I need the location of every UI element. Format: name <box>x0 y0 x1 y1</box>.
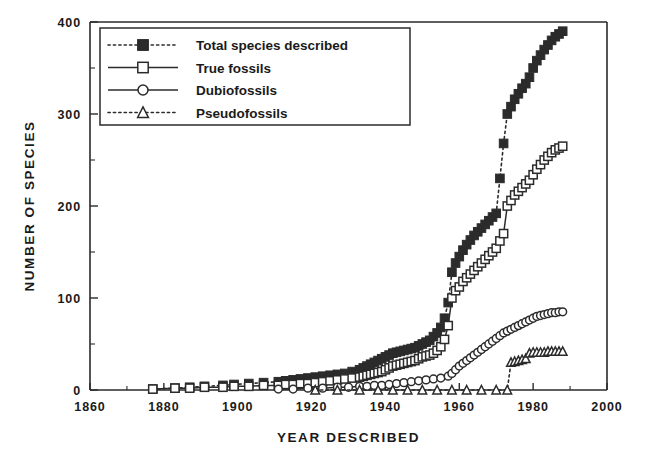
marker-open-circle <box>138 85 148 95</box>
legend-item-label: Total species described <box>196 38 348 53</box>
y-tick-label: 100 <box>57 292 81 306</box>
x-tick-label: 1960 <box>444 400 475 414</box>
x-tick-label: 1980 <box>517 400 548 414</box>
marker-open-circle <box>363 382 371 390</box>
legend-item-label: Dubiofossils <box>196 83 277 98</box>
marker-open-circle <box>437 374 445 382</box>
marker-open-circle <box>304 384 312 392</box>
marker-open-circle <box>289 385 297 393</box>
marker-open-square <box>149 385 157 393</box>
x-tick-label: 2000 <box>591 400 622 414</box>
x-axis-title: YEAR DESCRIBED <box>277 430 420 445</box>
marker-open-square <box>559 142 567 150</box>
x-tick-label: 1940 <box>370 400 401 414</box>
marker-open-square <box>259 381 267 389</box>
marker-open-circle <box>559 308 567 316</box>
marker-open-square <box>245 382 253 390</box>
marker-open-circle <box>274 385 282 393</box>
marker-filled-square <box>558 27 567 36</box>
chart-legend: Total species describedTrue fossilsDubio… <box>100 28 410 125</box>
x-tick-label: 1900 <box>222 400 253 414</box>
marker-open-square <box>200 383 208 391</box>
marker-open-circle <box>407 378 415 386</box>
marker-open-square <box>500 230 508 238</box>
marker-filled-square <box>448 268 457 277</box>
marker-open-square <box>230 382 238 390</box>
marker-open-circle <box>422 376 430 384</box>
marker-open-square <box>440 335 448 343</box>
marker-open-square <box>444 322 452 330</box>
marker-filled-square <box>496 174 505 183</box>
legend-item-label: Pseudofossils <box>196 106 288 121</box>
marker-open-circle <box>319 384 327 392</box>
y-axis-title: NUMBER OF SPECIES <box>22 120 37 291</box>
x-tick-label: 1920 <box>296 400 327 414</box>
marker-open-square <box>186 384 194 392</box>
marker-filled-square <box>138 40 149 51</box>
y-tick-label: 0 <box>73 384 81 398</box>
marker-open-circle <box>400 379 408 387</box>
legend-item-label: True fossils <box>196 61 271 76</box>
marker-open-circle <box>430 375 438 383</box>
y-tick-label: 300 <box>57 108 81 122</box>
marker-open-square <box>138 62 148 72</box>
legend-item-total-species-described[interactable]: Total species described <box>108 38 348 53</box>
species-described-line-chart: 1860188019001920194019601980200001002003… <box>0 0 645 462</box>
chart-figure: 1860188019001920194019601980200001002003… <box>0 0 645 462</box>
x-tick-label: 1860 <box>74 400 105 414</box>
y-tick-label: 200 <box>57 200 81 214</box>
x-tick-label: 1880 <box>148 400 179 414</box>
marker-filled-square <box>525 73 534 82</box>
marker-open-circle <box>415 377 423 385</box>
marker-open-square <box>219 383 227 391</box>
marker-open-square <box>171 384 179 392</box>
marker-filled-square <box>499 139 508 148</box>
marker-filled-square <box>492 209 501 218</box>
y-tick-label: 400 <box>57 16 81 30</box>
